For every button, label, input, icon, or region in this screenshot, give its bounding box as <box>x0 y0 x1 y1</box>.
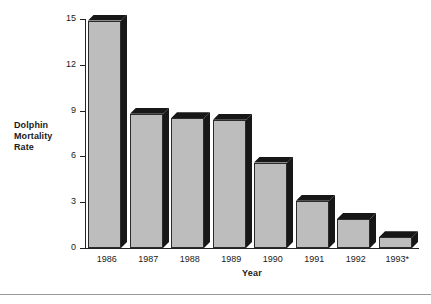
y-tick-mark <box>80 19 85 20</box>
y-tick-mark <box>80 65 85 66</box>
bar-front-face <box>296 201 329 248</box>
y-axis-title-line-1: Dolphin <box>14 120 52 131</box>
bar-front-face <box>254 163 287 248</box>
bar <box>213 114 252 248</box>
bar <box>88 15 127 248</box>
y-tick-label-text: 3 <box>52 197 76 206</box>
bar <box>171 112 210 248</box>
y-tick-mark <box>80 156 85 157</box>
y-tick-label-text: 0 <box>52 243 76 252</box>
bar-front-face <box>337 219 370 248</box>
y-axis-line <box>85 19 86 249</box>
bar-front-face <box>88 21 121 248</box>
y-tick-mark <box>80 202 85 203</box>
y-tick-label-text: 15 <box>52 14 76 23</box>
bar-front-face <box>171 118 204 248</box>
y-tick-label-text: 9 <box>52 106 76 115</box>
y-tick-label-text: 12 <box>52 60 76 69</box>
bar <box>296 195 335 248</box>
y-axis-title: Dolphin Mortality Rate <box>14 120 52 153</box>
bar-side-facet <box>287 157 293 248</box>
y-axis-title-line-3: Rate <box>14 142 52 153</box>
x-axis-line <box>85 248 419 249</box>
bar <box>254 157 293 248</box>
bar-side-facet <box>370 213 376 248</box>
dolphin-mortality-bar-chart: Dolphin Mortality Rate 03691215 19861987… <box>0 0 431 304</box>
bar-front-face <box>130 114 163 248</box>
bottom-divider <box>0 294 431 295</box>
bar-side-facet <box>329 195 335 248</box>
bar <box>379 231 418 248</box>
bar-front-face <box>213 120 246 248</box>
x-axis-title: Year <box>86 268 418 278</box>
bar-front-face <box>379 237 412 248</box>
bar <box>337 213 376 248</box>
y-tick-label-text: 6 <box>52 151 76 160</box>
y-axis-title-line-2: Mortality <box>14 131 52 142</box>
bar-side-facet <box>163 108 169 248</box>
x-tick-label: 1993* <box>373 254 421 264</box>
y-tick-mark <box>80 248 85 249</box>
y-tick-mark <box>80 111 85 112</box>
bar-side-facet <box>121 15 127 248</box>
bar <box>130 108 169 248</box>
bar-side-facet <box>246 114 252 248</box>
bar-side-facet <box>204 112 210 248</box>
